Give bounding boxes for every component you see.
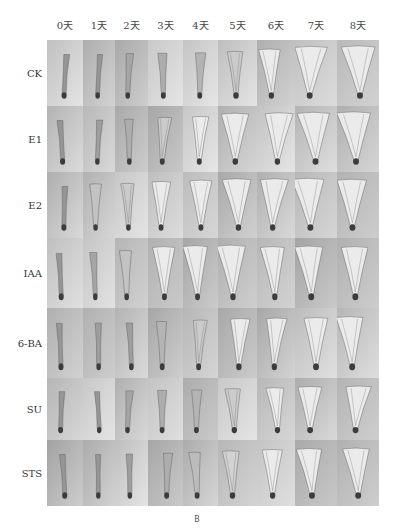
flower-calyx [197, 92, 202, 99]
photo-cell [183, 106, 218, 172]
flower-calyx [95, 158, 99, 165]
column-header: 0天 [57, 17, 73, 32]
flower-calyx [160, 158, 165, 165]
photo-cell [257, 40, 295, 106]
flower-calyx [269, 92, 274, 99]
flower-photo [47, 378, 83, 440]
flower-calyx [164, 492, 169, 499]
photo-cell [218, 308, 257, 378]
photo-background [115, 40, 148, 106]
photo-cell [257, 238, 295, 308]
photo-background [183, 440, 218, 506]
flower-photo [115, 172, 148, 238]
flower-calyx [275, 427, 280, 433]
photo-cell [337, 308, 379, 378]
flower-calyx [124, 293, 129, 300]
flower-calyx [313, 158, 319, 165]
flower-calyx [307, 224, 313, 231]
photo-background [83, 238, 115, 308]
flower-photo [83, 308, 115, 378]
flower-calyx [62, 92, 67, 99]
flower-photo [295, 440, 337, 506]
flower-photo [148, 40, 183, 106]
photo-cell [115, 172, 148, 238]
column-header: 4天 [192, 17, 208, 32]
flower-photo [257, 238, 295, 308]
flower-photo [148, 172, 183, 238]
flower-photo [183, 378, 218, 440]
flower-calyx [349, 363, 355, 370]
row-label: SU [0, 404, 42, 415]
photo-cell [183, 308, 218, 378]
photo-cell [47, 40, 83, 106]
row-label: IAA [0, 268, 42, 279]
photo-cell [183, 378, 218, 440]
flower-calyx [58, 363, 63, 370]
flower-photo [183, 308, 218, 378]
photo-cell [115, 40, 148, 106]
photo-cell [115, 106, 148, 172]
photo-background [148, 308, 183, 378]
flower-calyx [161, 92, 166, 99]
flower-photo [337, 172, 379, 238]
flower-photo [337, 378, 379, 440]
photo-cell [257, 106, 295, 172]
flower-calyx [62, 492, 67, 499]
flower-photo [115, 40, 148, 106]
photo-cell [218, 40, 257, 106]
flower-calyx [233, 92, 238, 99]
flower-calyx [197, 158, 202, 165]
flower-photo [295, 172, 337, 238]
photo-cell [295, 378, 337, 440]
photo-cell [295, 172, 337, 238]
flower-photo [183, 238, 218, 308]
flower-photo [183, 106, 218, 172]
flower-photo [337, 440, 379, 506]
flower-photo [83, 172, 115, 238]
flower-calyx [355, 492, 361, 499]
flower-photo [257, 172, 295, 238]
flower-calyx [125, 92, 130, 99]
photo-cell [218, 172, 257, 238]
flower-calyx [272, 363, 277, 370]
flower-petal [96, 455, 101, 495]
flower-calyx [195, 293, 200, 300]
flower-calyx [307, 92, 313, 99]
flower-calyx [270, 224, 275, 231]
photo-cell [83, 40, 115, 106]
photo-background [183, 378, 218, 440]
flower-calyx [270, 492, 275, 499]
column-header: 7天 [308, 17, 324, 32]
flower-calyx [128, 492, 133, 499]
photo-cell [337, 238, 379, 308]
flower-photo [257, 378, 295, 440]
column-header: 5天 [229, 17, 245, 32]
flower-photo [257, 308, 295, 378]
flower-photo [218, 172, 257, 238]
flower-calyx [230, 492, 235, 499]
column-header: 1天 [91, 17, 107, 32]
flower-calyx [198, 224, 203, 231]
photo-cell [148, 308, 183, 378]
photo-cell [183, 440, 218, 506]
flower-calyx [58, 427, 63, 433]
flower-photo [148, 308, 183, 378]
flower-photo [47, 238, 83, 308]
photo-background [115, 238, 148, 308]
flower-calyx [275, 158, 280, 165]
flower-photo [47, 106, 83, 172]
photo-cell [218, 378, 257, 440]
flower-photo [148, 106, 183, 172]
flower-calyx [357, 92, 363, 99]
photo-cell [83, 106, 115, 172]
photo-cell [148, 40, 183, 106]
flower-photo [257, 440, 295, 506]
flower-photo [83, 40, 115, 106]
flower-calyx [97, 427, 101, 433]
flower-calyx [93, 224, 97, 231]
flower-calyx [353, 427, 359, 433]
photo-cell [115, 378, 148, 440]
flower-photo [337, 238, 379, 308]
photo-cell [148, 106, 183, 172]
flower-calyx [96, 363, 100, 370]
